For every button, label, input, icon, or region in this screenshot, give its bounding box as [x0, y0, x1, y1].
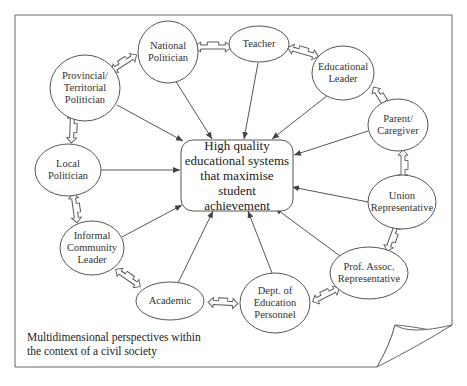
label-union-representative: Union Representative — [371, 190, 433, 214]
label-informal-community-leader: Informal Community Leader — [67, 230, 117, 266]
label-provincial-territorial-politician: Provincial/ Territorial Politician — [62, 70, 108, 106]
label-national-politician: National Politician — [148, 40, 188, 64]
label-teacher: Teacher — [242, 38, 275, 50]
label-educational-leader: Educational Leader — [318, 61, 368, 85]
diagram-caption: Multidimensional perspectives within the… — [27, 330, 201, 358]
center-label: High quality educational systems that ma… — [181, 140, 293, 211]
label-prof-assoc-representative: Prof. Assoc. Representative — [338, 261, 400, 285]
label-local-politician: Local Politician — [48, 158, 88, 182]
label-parent-caregiver: Parent/ Caregiver — [377, 113, 418, 137]
label-dept-of-education-personnel: Dept. of Education Personnel — [254, 285, 297, 321]
label-academic: Academic — [149, 295, 192, 307]
